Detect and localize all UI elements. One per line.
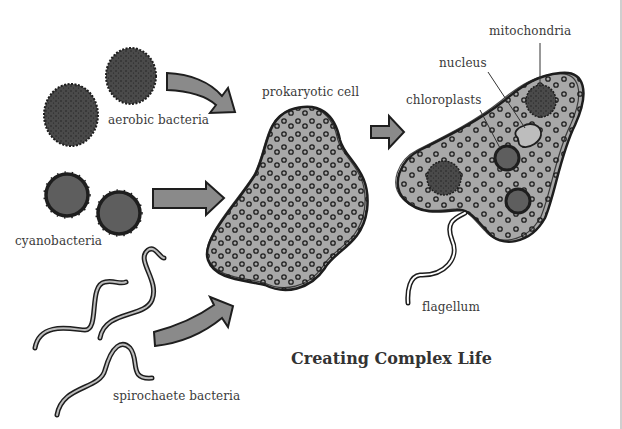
prokaryotic-cell bbox=[207, 107, 368, 290]
diagram-canvas: aerobic bacteria cyanobacteria spirochae… bbox=[0, 0, 622, 429]
arrow-aerobic-to-cell bbox=[167, 73, 235, 113]
chloroplast-1 bbox=[495, 146, 519, 170]
arrow-spiro-to-cell bbox=[154, 297, 233, 346]
diagram-title: Creating Complex Life bbox=[291, 349, 492, 368]
label-aerobic-bacteria: aerobic bacteria bbox=[108, 113, 209, 127]
cyanobacterium-1 bbox=[44, 172, 90, 218]
mitochondrion-2 bbox=[427, 161, 461, 195]
aerobic-bacterium-small bbox=[106, 48, 156, 104]
label-mitochondria: mitochondria bbox=[489, 24, 571, 38]
label-cyanobacteria: cyanobacteria bbox=[15, 234, 102, 248]
aerobic-bacterium-large bbox=[44, 84, 98, 146]
label-prokaryotic-cell: prokaryotic cell bbox=[262, 85, 359, 99]
chloroplast-2 bbox=[506, 189, 530, 213]
mitochondrion bbox=[526, 85, 556, 117]
label-spirochaete-bacteria: spirochaete bacteria bbox=[113, 389, 240, 403]
eukaryotic-cell bbox=[396, 43, 584, 303]
label-flagellum: flagellum bbox=[422, 300, 480, 314]
arrow-prokaryote-to-eukaryote bbox=[371, 116, 404, 148]
arrow-cyano-to-cell bbox=[153, 182, 224, 215]
cyanobacterium-2 bbox=[96, 190, 142, 236]
label-chloroplasts: chloroplasts bbox=[406, 93, 482, 107]
label-nucleus: nucleus bbox=[439, 56, 487, 70]
flagellum bbox=[408, 213, 465, 303]
